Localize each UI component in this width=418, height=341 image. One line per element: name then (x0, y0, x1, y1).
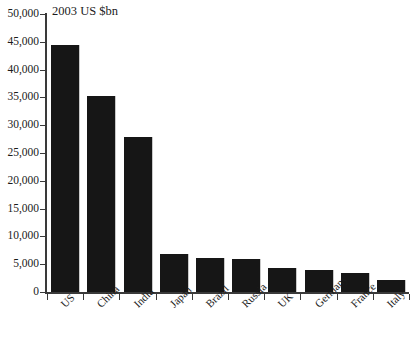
y-tick (40, 97, 45, 98)
x-tick (300, 294, 301, 300)
x-tick (47, 294, 48, 300)
y-tick-label: 30,000 (7, 119, 39, 131)
x-tick (192, 294, 193, 300)
x-tick (373, 294, 374, 300)
y-tick (40, 153, 45, 154)
bar (124, 137, 152, 292)
y-tick (40, 292, 45, 293)
y-tick (40, 209, 45, 210)
y-tick-label: 0 (33, 286, 39, 298)
x-tick (337, 294, 338, 300)
y-tick-label: 15,000 (7, 203, 39, 215)
y-tick-label: 5,000 (13, 258, 39, 270)
x-tick (83, 294, 84, 300)
bar-chart: 2003 US $bn 05,00010,00015,00020,00025,0… (0, 0, 418, 341)
y-tick-label: 25,000 (7, 147, 39, 159)
chart-title: 2003 US $bn (52, 4, 118, 18)
bar (87, 96, 115, 292)
x-tick (119, 294, 120, 300)
x-tick-label: US (59, 292, 77, 310)
y-axis-line (45, 13, 47, 293)
y-tick-label: 10,000 (7, 230, 39, 242)
y-tick-label: 40,000 (7, 64, 39, 76)
bar (268, 268, 296, 292)
y-tick (40, 125, 45, 126)
y-tick-label: 45,000 (7, 36, 39, 48)
y-tick (40, 236, 45, 237)
y-tick (40, 181, 45, 182)
y-tick (40, 70, 45, 71)
x-tick (264, 294, 265, 300)
y-tick (40, 14, 45, 15)
y-tick-label: 20,000 (7, 175, 39, 187)
bar (51, 45, 79, 292)
y-tick (40, 264, 45, 265)
y-tick-label: 50,000 (7, 8, 39, 20)
x-tick (228, 294, 229, 300)
y-tick (40, 42, 45, 43)
x-tick (409, 294, 410, 300)
x-tick (156, 294, 157, 300)
y-tick-label: 35,000 (7, 91, 39, 103)
